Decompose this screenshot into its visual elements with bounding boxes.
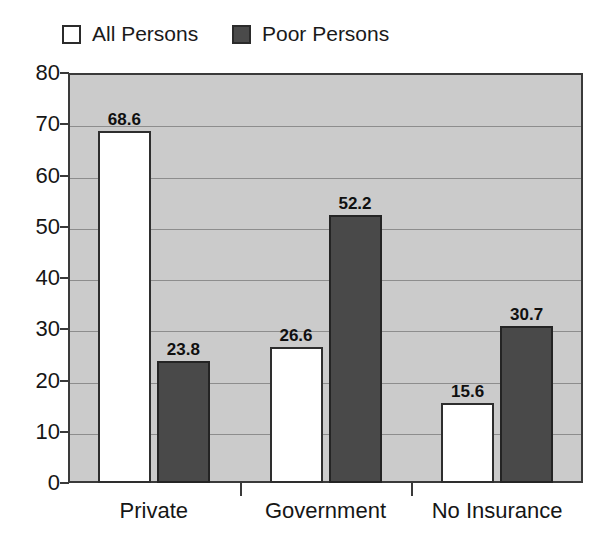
- bar-government-all-persons[interactable]: [270, 347, 323, 483]
- legend-entry-poor-persons: Poor Persons: [232, 20, 389, 48]
- bar-private-all-persons[interactable]: [98, 131, 151, 483]
- x-axis-tick-labels: PrivateGovernmentNo Insurance: [0, 498, 611, 534]
- legend-label-poor-persons: Poor Persons: [262, 23, 389, 45]
- bar-value-label: 30.7: [486, 305, 567, 325]
- x-axis-tick-marks: [0, 483, 611, 497]
- bar-value-label: 26.6: [256, 326, 337, 346]
- legend-label-all-persons: All Persons: [92, 23, 198, 45]
- bar-no-insurance-all-persons[interactable]: [441, 403, 494, 483]
- bar-value-label: 15.6: [427, 382, 508, 402]
- bar-value-label: 68.6: [84, 110, 165, 130]
- bar-government-poor-persons[interactable]: [329, 215, 382, 483]
- chart-legend: All Persons Poor Persons: [0, 18, 611, 58]
- x-axis-category-label: No Insurance: [411, 498, 583, 524]
- bar-value-label: 52.2: [315, 194, 396, 214]
- legend-entry-all-persons: All Persons: [62, 20, 198, 48]
- hollow-square-icon: [62, 25, 81, 44]
- bar-value-label: 23.8: [143, 340, 224, 360]
- x-axis-tick-mark: [411, 483, 413, 496]
- bar-private-poor-persons[interactable]: [157, 361, 210, 483]
- x-axis-tick-mark: [240, 483, 242, 496]
- x-axis-category-label: Private: [68, 498, 240, 524]
- filled-square-icon: [232, 25, 251, 44]
- y-axis-tick-marks: [0, 73, 70, 483]
- bar-no-insurance-poor-persons[interactable]: [500, 326, 553, 483]
- x-axis-category-label: Government: [240, 498, 412, 524]
